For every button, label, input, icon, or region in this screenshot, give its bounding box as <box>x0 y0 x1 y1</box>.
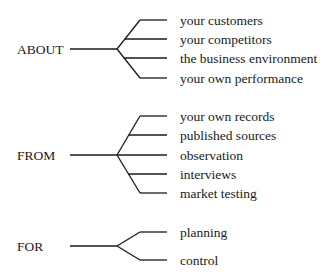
leaf-item: your own performance <box>180 71 303 86</box>
leaf-item: the business environment <box>180 51 317 66</box>
group-label: ABOUT <box>17 42 64 57</box>
leaf-item: market testing <box>180 186 257 201</box>
leaf-item: interviews <box>180 167 236 182</box>
group-label: FROM <box>17 148 55 163</box>
branch-diagonal <box>117 232 140 246</box>
group-label: FOR <box>17 239 43 254</box>
leaf-item: planning <box>180 225 227 240</box>
group-about: ABOUTyour customersyour competitorsthe b… <box>17 13 317 86</box>
tree-diagram: ABOUTyour customersyour competitorsthe b… <box>0 0 325 280</box>
leaf-item: your competitors <box>180 32 272 47</box>
leaf-item: your own records <box>180 109 274 124</box>
group-for: FORplanningcontrol <box>17 225 227 268</box>
leaf-item: published sources <box>180 128 276 143</box>
group-from: FROMyour own recordspublished sourcesobs… <box>17 109 276 201</box>
leaf-item: control <box>180 253 218 268</box>
leaf-item: your customers <box>180 13 263 28</box>
branch-diagonal <box>117 246 140 260</box>
branch-diagonal <box>117 20 140 49</box>
branch-diagonal <box>117 49 140 78</box>
leaf-item: observation <box>180 148 243 163</box>
